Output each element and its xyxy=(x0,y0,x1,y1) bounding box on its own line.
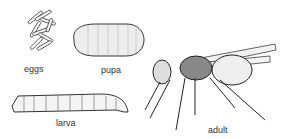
pupa-illustration xyxy=(74,24,144,56)
eggs-label: eggs xyxy=(24,64,44,74)
pupa-label: pupa xyxy=(101,65,121,75)
eggs-illustration xyxy=(27,10,55,51)
adult-fly-illustration xyxy=(145,44,276,130)
adult-label: adult xyxy=(208,125,228,135)
larva-illustration xyxy=(12,94,128,112)
larva-label: larva xyxy=(56,118,76,128)
